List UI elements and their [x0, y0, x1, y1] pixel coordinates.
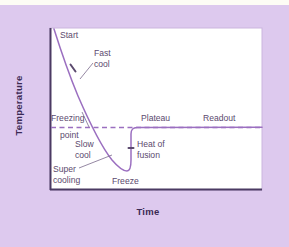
- annotation-fast-cool: Fast cool: [94, 48, 111, 69]
- y-axis-title: Temperature: [13, 66, 24, 146]
- cooling-curve-figure: Temperature Time Start Fast cool Freezin…: [0, 0, 289, 247]
- annotation-freezing: Freezing: [51, 113, 84, 124]
- annotation-plateau: Plateau: [141, 113, 170, 124]
- fast-cool-tick-icon: [71, 65, 76, 72]
- fast-cool-leader-line: [80, 63, 93, 79]
- annotation-freeze: Freeze: [112, 176, 139, 187]
- annotation-start: Start: [60, 30, 78, 41]
- annotation-super-cooling: Super cooling: [53, 164, 80, 185]
- annotation-slow-cool: Slow cool: [75, 139, 94, 160]
- annotation-readout: Readout: [203, 113, 236, 124]
- plot-border: [50, 28, 262, 190]
- annotation-heat-of-fusion: Heat of fusion: [137, 139, 165, 160]
- x-axis-title: Time: [118, 206, 178, 217]
